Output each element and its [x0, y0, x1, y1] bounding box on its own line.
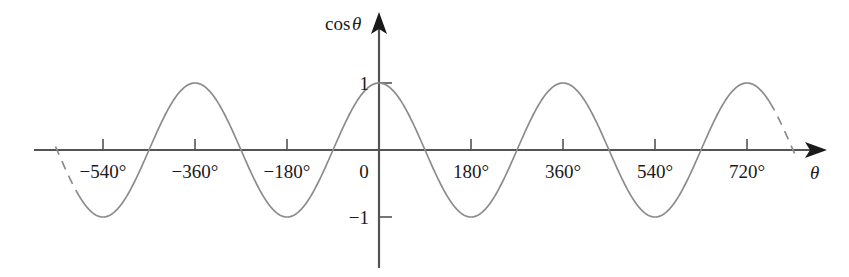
x-tick-label-360: 360°	[545, 162, 581, 181]
graph-canvas	[0, 0, 849, 277]
y-axis-title-var: θ	[352, 13, 361, 34]
cosine-graph-figure: cos θ θ 1 −1 0 −540° −360° −180° 180° 36…	[0, 0, 849, 277]
y-tick-label-minus-1: −1	[349, 208, 369, 227]
x-axis-title: θ	[810, 163, 819, 182]
origin-label: 0	[359, 162, 369, 181]
y-axis-title-fn: cos	[325, 13, 350, 34]
x-tick-label-540: 540°	[637, 162, 673, 181]
cosine-curve-dashed-left	[55, 146, 80, 197]
x-tick-label--180: −180°	[264, 162, 311, 181]
x-tick-label-180: 180°	[453, 162, 489, 181]
x-tick-label--540: −540°	[80, 162, 127, 181]
x-tick-label--360: −360°	[172, 162, 219, 181]
y-axis-title: cos θ	[325, 14, 361, 33]
x-tick-label-720: 720°	[729, 162, 765, 181]
y-tick-label-1: 1	[360, 74, 370, 93]
cosine-curve-dashed-right	[770, 103, 795, 154]
